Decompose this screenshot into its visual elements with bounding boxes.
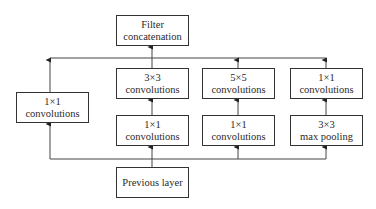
max-pooling-3x3-node: 3×3 max pooling xyxy=(290,115,363,146)
node-label: Previous layer xyxy=(122,177,182,189)
node-label-line1: 1×1 xyxy=(318,72,334,84)
node-label-line2: convolutions xyxy=(25,108,79,120)
node-label-line1: 1×1 xyxy=(230,119,246,131)
node-label-line2: convolutions xyxy=(299,84,353,96)
left-1x1-conv-node: 1×1 convolutions xyxy=(16,92,89,123)
node-label-line1: 5×5 xyxy=(230,72,246,84)
conv-5x5-node: 5×5 convolutions xyxy=(202,68,275,99)
node-label-line2: convolutions xyxy=(125,84,179,96)
node-label-line1: 1×1 xyxy=(144,119,160,131)
node-label-line2: convolutions xyxy=(125,131,179,143)
reduce-1x1-b-node: 1×1 convolutions xyxy=(202,115,275,146)
node-label-line1: 3×3 xyxy=(144,72,160,84)
conv-3x3-node: 3×3 convolutions xyxy=(116,68,189,99)
node-label-line2: convolutions xyxy=(211,84,265,96)
node-label-line2: max pooling xyxy=(300,131,353,143)
node-label-line1: Filter xyxy=(141,19,164,31)
node-label-line2: convolutions xyxy=(211,131,265,143)
node-label-line1: 3×3 xyxy=(318,119,334,131)
filter-concatenation-node: Filter concatenation xyxy=(116,15,189,46)
node-label-line1: 1×1 xyxy=(44,96,60,108)
previous-layer-node: Previous layer xyxy=(116,167,189,198)
reduce-1x1-a-node: 1×1 convolutions xyxy=(116,115,189,146)
pool-projection-1x1-node: 1×1 convolutions xyxy=(290,68,363,99)
node-label-line2: concatenation xyxy=(123,31,181,43)
